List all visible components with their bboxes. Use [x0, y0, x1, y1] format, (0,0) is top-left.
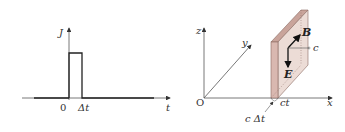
origin-label: 0	[60, 102, 66, 113]
x-axis-label: x	[327, 97, 333, 108]
t-axis-label: t	[166, 102, 171, 113]
pulse-plot: J t 0 Δt	[22, 27, 171, 113]
ct-label: ct	[280, 97, 291, 108]
rectangular-pulse	[69, 53, 154, 98]
wave-slab-diagram: z y x O B E c ct c Δt	[195, 10, 333, 124]
y-axis-label: y	[241, 37, 248, 48]
diagram-canvas: J t 0 Δt z y x O B E c ct c	[0, 0, 345, 132]
z-axis-label: z	[195, 25, 202, 36]
slab-front-face	[271, 42, 278, 98]
origin-o-label: O	[196, 97, 204, 108]
b-vector-label: B	[301, 26, 311, 39]
thickness-pointer	[265, 102, 273, 112]
c-delta-t-label: c Δt	[245, 113, 266, 124]
speed-c-label: c	[313, 42, 319, 53]
e-vector-label: E	[283, 68, 293, 81]
j-axis-label: J	[57, 27, 64, 38]
y-axis	[204, 45, 251, 98]
delta-t-label: Δt	[77, 102, 90, 113]
